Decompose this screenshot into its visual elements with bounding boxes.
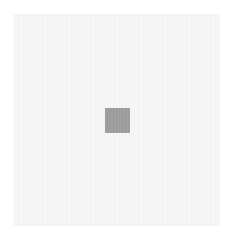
canvas [0, 0, 232, 238]
gray-square [105, 108, 130, 133]
